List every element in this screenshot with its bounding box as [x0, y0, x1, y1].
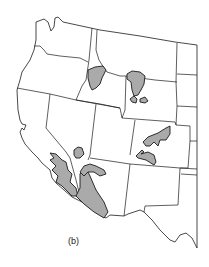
western-us-map [0, 0, 209, 267]
figure-caption: (b) [68, 236, 79, 246]
